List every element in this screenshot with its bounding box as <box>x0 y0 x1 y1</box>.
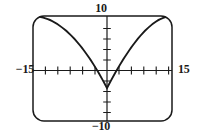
x-min-label: −15 <box>2 63 34 75</box>
y-min-label: −10 <box>0 120 202 132</box>
x-max-label: 15 <box>178 63 202 75</box>
plot-background <box>33 16 172 121</box>
y-max-label: 10 <box>0 2 202 14</box>
